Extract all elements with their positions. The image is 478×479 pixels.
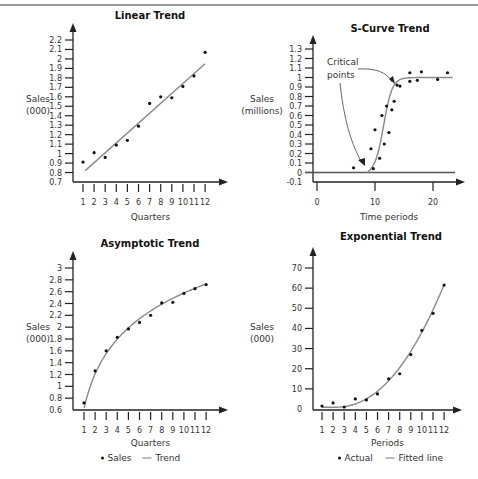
chart-asymptotic: Asymptotic Trend0.60.811.21.41.61.822.22… [26,238,228,463]
x-tick-label: 5 [125,198,130,207]
y-tick-label: 2 [57,323,62,332]
data-point [182,292,185,295]
x-tick-label: 0 [314,198,319,207]
y-tick-label: 1.3 [49,121,62,130]
y-tick-label: 1.2 [289,55,302,64]
x-tick-label: 11 [190,426,200,435]
x-tick-label: 8 [158,198,163,207]
data-point [93,151,96,154]
x-tick-label: 2 [331,426,336,435]
y-tick-label: 60 [292,284,302,293]
x-tick-label: 7 [386,426,391,435]
trend-line [85,64,205,171]
y-tick-label: 2.6 [49,288,62,297]
y-tick-label: 1.4 [49,112,62,121]
x-tick-label: 6 [375,426,380,435]
y-tick-label: 0.8 [49,394,62,403]
chart-linear: Linear Trend0.70.80.911.11.21.31.41.51.6… [26,10,228,222]
x-tick-label: 8 [159,426,164,435]
data-point [408,80,411,83]
y-tick-label: 3 [57,264,62,273]
x-tick-label: 10 [417,426,427,435]
legend-label: Actual [345,453,373,463]
chart-exponential: Exponential Trend01020304050607012345678… [250,231,462,463]
y-tick-label: 2.1 [49,45,62,54]
y-tick-label: -0.1 [286,178,302,187]
x-axis-label: Quarters [131,438,171,448]
data-point [204,51,207,54]
data-point [320,404,323,407]
legend-label: Sales [108,453,132,463]
x-tick-label: 7 [147,198,152,207]
x-tick-label: 3 [104,426,109,435]
x-tick-label: 6 [137,426,142,435]
data-point [104,156,107,159]
x-tick-label: 5 [126,426,131,435]
data-point [393,100,396,103]
y-axis-label: Sales [250,322,274,332]
x-tick-label: 10 [370,198,380,207]
legend-point-icon [101,457,104,460]
y-axis-label: Sales [26,94,50,104]
x-tick-label: 4 [114,198,119,207]
x-tick-label: 12 [200,198,210,207]
y-axis-label: (000) [26,106,50,116]
data-point [365,398,368,401]
data-point [181,85,184,88]
x-axis-label: Periods [371,438,404,448]
annotation-label: Critical [327,57,358,67]
data-point [137,125,140,128]
x-tick-label: 2 [92,198,97,207]
y-tick-label: 0.6 [49,406,62,415]
data-point [138,321,141,324]
y-tick-label: 0.9 [49,159,62,168]
data-point [116,336,119,339]
data-point [398,84,401,87]
legend-label: Fitted line [399,453,444,463]
y-axis-label: (000) [250,334,274,344]
y-tick-label: 2 [57,55,62,64]
y-tick-label: 1 [57,382,62,391]
annotation-label: points [327,70,355,80]
x-tick-label: 2 [93,426,98,435]
data-point [378,157,381,160]
data-point [127,327,130,330]
data-point [170,96,173,99]
x-tick-label: 9 [169,198,174,207]
y-tick-label: 40 [292,324,302,333]
data-point [387,131,390,134]
y-tick-label: 0.1 [289,159,302,168]
data-point [115,143,118,146]
x-tick-label: 3 [103,198,108,207]
chart-title: Exponential Trend [340,231,442,242]
x-tick-label: 11 [428,426,438,435]
data-point [395,84,398,87]
chart-title: Linear Trend [115,10,186,21]
x-tick-label: 1 [80,198,85,207]
y-tick-label: 0.8 [289,93,302,102]
data-point [332,401,335,404]
y-tick-label: 0.8 [49,169,62,178]
data-point [205,283,208,286]
data-point [171,301,174,304]
y-tick-label: 20 [292,365,302,374]
x-axis-label: Time periods [359,212,419,222]
y-tick-label: 1.3 [289,45,302,54]
y-tick-label: 30 [292,345,302,354]
data-point [160,301,163,304]
legend-label: Trend [155,453,181,463]
x-tick-label: 11 [189,198,199,207]
x-tick-label: 1 [81,426,86,435]
data-point [385,104,388,107]
y-tick-label: 1.4 [49,359,62,368]
y-tick-label: 0.7 [289,102,302,111]
y-axis-label: Sales [250,94,274,104]
y-axis-label: Sales [26,322,50,332]
y-tick-label: 70 [292,264,302,273]
data-point [159,95,162,98]
y-tick-label: 10 [292,385,302,394]
data-point [383,142,386,145]
data-point [408,71,411,74]
data-point [82,401,85,404]
data-point [81,161,84,164]
